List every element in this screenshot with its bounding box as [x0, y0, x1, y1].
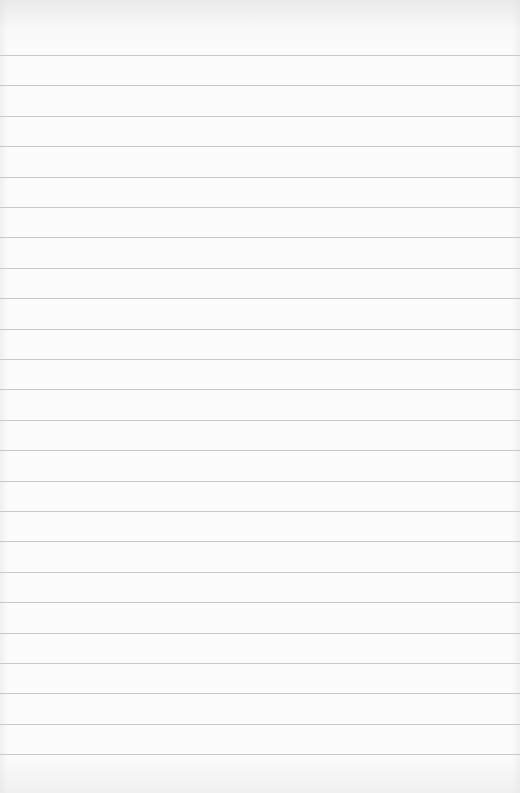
ruled-line: [0, 116, 520, 117]
ruled-line: [0, 663, 520, 664]
ruled-line: [0, 329, 520, 330]
ruled-line: [0, 602, 520, 603]
ruled-line: [0, 177, 520, 178]
lined-paper: [0, 0, 520, 793]
ruled-line: [0, 85, 520, 86]
ruled-line: [0, 359, 520, 360]
ruled-line: [0, 724, 520, 725]
ruled-line: [0, 450, 520, 451]
ruled-line: [0, 693, 520, 694]
ruled-line: [0, 541, 520, 542]
ruled-line: [0, 481, 520, 482]
ruled-line: [0, 572, 520, 573]
ruled-line: [0, 298, 520, 299]
ruled-line: [0, 146, 520, 147]
ruled-line: [0, 633, 520, 634]
ruled-line: [0, 389, 520, 390]
ruled-line: [0, 511, 520, 512]
ruled-line: [0, 754, 520, 755]
ruled-line: [0, 207, 520, 208]
ruled-line: [0, 420, 520, 421]
ruled-line: [0, 237, 520, 238]
ruled-line: [0, 268, 520, 269]
ruled-line: [0, 55, 520, 56]
